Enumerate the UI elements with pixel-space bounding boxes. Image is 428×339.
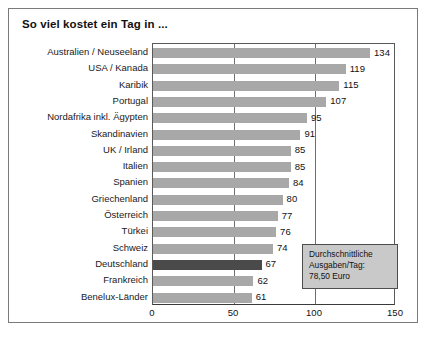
bar-nordafrika-inkl-gypten [153, 113, 307, 123]
bar-value-label: 61 [256, 291, 267, 303]
category-label: Skandinavien [2, 128, 148, 140]
bar-value-label: 67 [266, 258, 277, 270]
average-spend-callout: Durchschnittliche Ausgaben/Tag: 78,50 Eu… [302, 244, 398, 289]
bar-row: 91 [153, 127, 394, 143]
bar-row: 85 [153, 143, 394, 159]
bar-deutschland [153, 260, 262, 270]
category-label: Portugal [2, 95, 148, 107]
bar-skandinavien [153, 130, 300, 140]
category-axis-labels: Australien / NeuseelandUSA / KanadaKarib… [0, 43, 148, 305]
bar-t-rkei [153, 227, 276, 237]
bar-row: 115 [153, 78, 394, 94]
bar-italien [153, 162, 291, 172]
bar-griechenland [153, 195, 283, 205]
bar-value-label: 80 [287, 193, 298, 205]
bar-value-label: 134 [374, 47, 390, 59]
bar-row: 85 [153, 159, 394, 175]
x-tick-100: 100 [306, 307, 322, 318]
bar-row: 84 [153, 175, 394, 191]
bar-uk-irland [153, 146, 291, 156]
callout-line-2: Ausgaben/Tag: [309, 260, 392, 271]
bar-value-label: 115 [343, 79, 358, 91]
bar-usa-kanada [153, 64, 346, 74]
category-label: Österreich [2, 209, 148, 221]
bar-row: 76 [153, 224, 394, 240]
bar-schweiz [153, 244, 273, 254]
category-label: Deutschland [2, 258, 148, 270]
category-label: Italien [2, 160, 148, 172]
bar-sterreich [153, 211, 278, 221]
bar-value-label: 119 [350, 63, 365, 75]
bar-benelux-l-nder [153, 293, 252, 303]
bar-row: 134 [153, 45, 394, 61]
callout-line-1: Durchschnittliche [309, 249, 392, 260]
bar-row: 61 [153, 290, 394, 306]
bar-row: 107 [153, 94, 394, 110]
category-label: USA / Kanada [2, 62, 148, 74]
category-label: Türkei [2, 225, 148, 237]
bar-value-label: 77 [282, 210, 293, 222]
bar-value-label: 85 [295, 144, 306, 156]
category-label: Frankreich [2, 274, 148, 286]
bar-row: 77 [153, 208, 394, 224]
bar-value-label: 76 [280, 226, 291, 238]
bar-spanien [153, 178, 289, 188]
bar-value-label: 74 [277, 242, 288, 254]
x-tick-50: 50 [228, 307, 239, 318]
chart-figure: So viel kostet ein Tag in ... Australien… [0, 0, 428, 339]
bar-value-label: 95 [311, 112, 322, 124]
bar-frankreich [153, 276, 253, 286]
category-label: Benelux-Länder [2, 291, 148, 303]
bar-value-label: 62 [257, 275, 268, 287]
bar-row: 95 [153, 110, 394, 126]
category-label: Griechenland [2, 193, 148, 205]
bar-value-label: 85 [295, 161, 306, 173]
x-axis-tick-labels: 050100150 [152, 307, 395, 323]
callout-line-3: 78,50 Euro [309, 271, 392, 282]
bar-value-label: 84 [293, 177, 304, 189]
bar-portugal [153, 97, 326, 107]
category-label: Spanien [2, 176, 148, 188]
category-label: UK / Irland [2, 144, 148, 156]
page-title: So viel kostet ein Tag in ... [22, 18, 168, 30]
category-label: Karibik [2, 79, 148, 91]
x-tick-0: 0 [149, 307, 154, 318]
category-label: Australien / Neuseeland [2, 46, 148, 58]
bar-value-label: 107 [330, 95, 346, 107]
category-label: Schweiz [2, 242, 148, 254]
category-label: Nordafrika inkl. Ägypten [2, 111, 148, 123]
bar-karibik [153, 81, 339, 91]
bar-row: 119 [153, 61, 394, 77]
bar-row: 80 [153, 192, 394, 208]
x-tick-150: 150 [387, 307, 403, 318]
bar-australien-neuseeland [153, 48, 370, 58]
bar-value-label: 91 [304, 128, 315, 140]
